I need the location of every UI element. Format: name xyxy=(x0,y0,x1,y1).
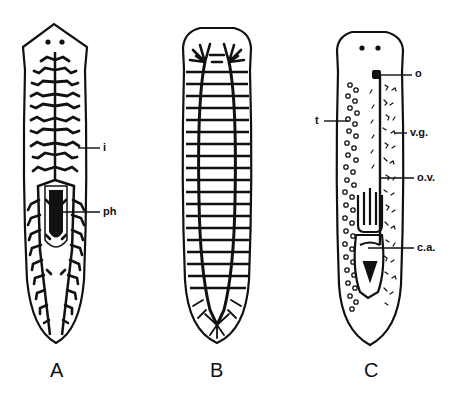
label-ovary: o xyxy=(415,68,422,79)
panel-a-pharynx xyxy=(49,190,63,238)
panel-c-drawing xyxy=(324,32,414,345)
label-pharynx: ph xyxy=(103,206,116,217)
label-vitelline-glands: v.g. xyxy=(410,127,428,138)
panel-b-nerve-cord-right xyxy=(217,62,235,325)
panel-a-eye-right xyxy=(59,39,64,44)
panel-b-nerve-cord-left xyxy=(199,62,217,325)
label-copulatory-apparatus: c.a. xyxy=(417,242,435,253)
panel-b-commissures xyxy=(186,72,250,288)
label-intestine: i xyxy=(103,142,106,153)
panel-a-eye-left xyxy=(45,39,50,44)
panel-c-eye-left xyxy=(359,45,364,50)
panel-b-drawing xyxy=(183,28,252,343)
panel-a-drawing xyxy=(23,24,100,343)
panel-label-c: C xyxy=(364,360,378,380)
planarian-diagram xyxy=(0,0,472,394)
panel-c-eye-right xyxy=(375,45,380,50)
panel-label-a: A xyxy=(50,360,63,380)
panel-b-body-outline xyxy=(183,28,252,343)
panel-label-b: B xyxy=(210,360,223,380)
label-oviduct: o.v. xyxy=(417,172,435,183)
label-testes: t xyxy=(315,115,319,126)
panel-b-tail-nerves xyxy=(193,300,241,338)
panel-b-cerebral-ganglia xyxy=(190,44,244,62)
